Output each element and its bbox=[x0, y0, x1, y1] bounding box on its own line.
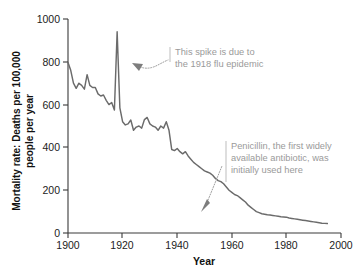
x-tick-label-1960: 1960 bbox=[220, 239, 244, 251]
chart-plot-area: Mortality rate: Deaths per 100,000 peopl… bbox=[0, 0, 358, 272]
flu-spike-annotation-line2: the 1918 flu epidemic bbox=[175, 59, 264, 69]
x-tick-label-1980: 1980 bbox=[274, 239, 298, 251]
penicillin-arrowhead-icon bbox=[201, 199, 210, 212]
flu-spike-leader-line bbox=[140, 60, 168, 68]
y-axis-title-line2: people per year bbox=[24, 94, 35, 168]
y-axis-title: Mortality rate: Deaths per 100,000 peopl… bbox=[11, 51, 35, 211]
penicillin-annotation-line2: available antibiotic, was bbox=[231, 153, 329, 163]
y-tick-label-400: 400 bbox=[42, 141, 60, 153]
penicillin-annotation-line3: initially used here bbox=[231, 165, 303, 175]
y-tick-label-200: 200 bbox=[42, 184, 60, 196]
y-tick-label-800: 800 bbox=[42, 56, 60, 68]
x-axis-ticks: 1900 1920 1940 1960 1980 2000 bbox=[56, 233, 353, 251]
flu-spike-annotation-line1: This spike is due to bbox=[175, 47, 255, 57]
mortality-rate-chart: Mortality rate: Deaths per 100,000 peopl… bbox=[0, 0, 358, 272]
y-tick-label-0: 0 bbox=[54, 227, 60, 239]
y-tick-label-1000: 1000 bbox=[37, 13, 61, 25]
x-tick-label-1900: 1900 bbox=[56, 239, 80, 251]
penicillin-annotation-line1: Penicillin, the first widely bbox=[231, 141, 332, 151]
x-tick-label-1920: 1920 bbox=[110, 239, 134, 251]
x-tick-label-1940: 1940 bbox=[165, 239, 189, 251]
x-axis-title: Year bbox=[193, 255, 215, 267]
y-tick-label-600: 600 bbox=[42, 99, 60, 111]
y-axis-ticks: 0 200 400 600 800 1000 bbox=[37, 13, 68, 239]
flu-spike-annotation: This spike is due to the 1918 flu epidem… bbox=[132, 47, 264, 71]
x-tick-label-2000: 2000 bbox=[329, 239, 353, 251]
penicillin-annotation: Penicillin, the first widely available a… bbox=[201, 141, 332, 212]
y-axis-title-line1: Mortality rate: Deaths per 100,000 bbox=[11, 51, 22, 211]
